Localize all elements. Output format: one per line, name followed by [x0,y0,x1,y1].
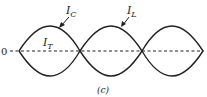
zero-label: 0 [1,46,7,57]
figure-caption: (c) [97,85,110,95]
ic-label: IC [65,4,76,19]
waveform-diagram: 0 IC IL IT (c) [0,0,207,97]
il-label: IL [126,4,137,19]
it-label: IT [42,36,53,51]
